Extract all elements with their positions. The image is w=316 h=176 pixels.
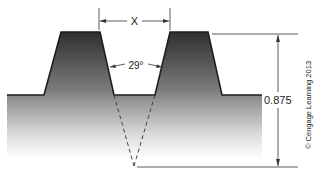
depth-label: 0.875 bbox=[264, 94, 292, 106]
angle-label: 29° bbox=[128, 60, 143, 71]
pitch-dimension: X bbox=[99, 8, 170, 30]
copyright-credit: © Cengage Learning 2013 bbox=[304, 61, 313, 149]
angle-dimension: 29° bbox=[110, 60, 162, 71]
pitch-label: X bbox=[131, 15, 139, 27]
thread-diagram: X 29° 0.875 © Cengage Learning 2013 bbox=[0, 0, 316, 176]
